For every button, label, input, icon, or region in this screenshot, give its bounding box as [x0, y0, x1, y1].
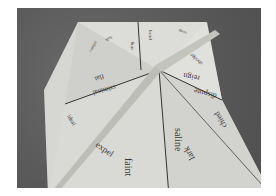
- folded-paper: faint saline lark chied dispute reign ab…: [17, 8, 261, 188]
- word-faint: faint: [123, 158, 134, 177]
- word-saline: saline: [173, 128, 184, 152]
- word-bend: bend: [148, 30, 153, 40]
- photo-background: faint saline lark chied dispute reign ab…: [17, 8, 261, 188]
- word-sing: sing: [129, 41, 134, 50]
